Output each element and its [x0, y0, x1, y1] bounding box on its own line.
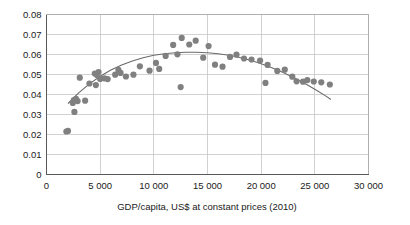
y-tick-label: 0.01 [23, 149, 42, 160]
y-tick-label: 0.03 [23, 109, 42, 120]
data-point [73, 96, 79, 102]
data-point [257, 57, 263, 63]
data-point [174, 51, 180, 57]
y-tick-label: 0.06 [23, 49, 42, 60]
data-point [233, 52, 239, 58]
x-tick-label: 20 000 [247, 180, 276, 191]
data-point [200, 55, 206, 61]
x-tick-label: 30 000 [354, 180, 383, 191]
y-tick-label: 0.05 [23, 69, 42, 80]
y-axis-tick-labels: 00.010.020.030.040.050.060.070.08 [23, 9, 42, 180]
data-point [219, 64, 225, 70]
data-point [86, 80, 92, 86]
data-point [241, 55, 247, 61]
data-point [77, 75, 83, 81]
data-point [179, 35, 185, 41]
chart-background [0, 0, 410, 225]
data-point [82, 98, 88, 104]
data-point [71, 109, 77, 115]
x-tick-label: 15 000 [193, 180, 222, 191]
y-tick-label: 0.04 [23, 89, 42, 100]
data-point [123, 73, 129, 79]
data-point [137, 63, 143, 69]
data-point [227, 54, 233, 60]
data-point [153, 60, 159, 66]
data-point [311, 78, 317, 84]
data-point [304, 77, 310, 83]
data-point [205, 43, 211, 49]
y-tick-label: 0 [36, 169, 41, 180]
data-point [289, 74, 295, 80]
data-point [65, 128, 71, 134]
data-point [318, 79, 324, 85]
y-tick-label: 0.08 [23, 9, 42, 20]
data-point [212, 62, 218, 68]
data-point [186, 41, 192, 47]
data-point [248, 56, 254, 62]
data-point [274, 68, 280, 74]
data-point [193, 38, 199, 44]
x-tick-label: 10 000 [139, 180, 168, 191]
data-point [130, 72, 136, 78]
x-tick-label: 5 000 [88, 180, 112, 191]
x-tick-label: 0 [44, 180, 49, 191]
data-point [117, 70, 123, 76]
data-point [170, 42, 176, 48]
data-point [262, 80, 268, 86]
data-point [265, 62, 271, 68]
data-point [156, 66, 162, 72]
data-point [95, 69, 101, 75]
data-point [163, 53, 169, 59]
data-point [105, 76, 111, 82]
data-point [178, 84, 184, 90]
data-point [327, 81, 333, 87]
data-point [282, 67, 288, 73]
y-tick-label: 0.02 [23, 129, 42, 140]
chart-canvas: 05 00010 00015 00020 00025 00030 000 00.… [0, 0, 410, 225]
x-axis-title: GDP/capita, US$ at constant prices (2010… [117, 201, 297, 212]
data-point [93, 82, 99, 88]
data-point [146, 68, 152, 74]
y-tick-label: 0.07 [23, 29, 42, 40]
x-tick-label: 25 000 [300, 180, 329, 191]
scatter-chart: 05 00010 00015 00020 00025 00030 000 00.… [0, 0, 410, 225]
data-point [293, 78, 299, 84]
